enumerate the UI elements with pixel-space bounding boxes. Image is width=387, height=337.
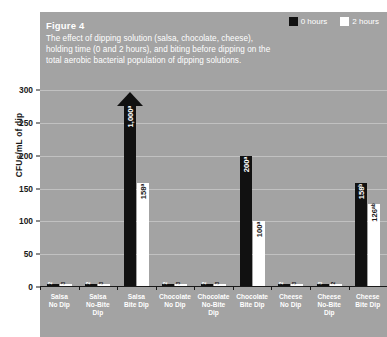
bar-value-label: 2 <box>201 282 207 285</box>
x-axis-label-line: No-Bite <box>310 301 349 309</box>
bar-value-label: 2 <box>278 282 284 285</box>
x-axis-label: SalsaNo Dip <box>40 290 79 334</box>
x-tick-mark <box>271 287 272 290</box>
x-axis-label: SalsaNo-BiteDip <box>79 290 118 334</box>
bar-group: 23 <box>156 90 195 287</box>
x-axis-label: CheeseBite Dip <box>349 290 387 334</box>
bar-group: 23 <box>271 90 310 287</box>
bar-value-label: 158ᵃ <box>138 184 147 200</box>
axis-baseline <box>40 286 387 287</box>
x-axis-label-line: Cheese <box>349 293 387 301</box>
bar-wrapper: 158ᵇ <box>355 183 367 287</box>
y-axis-ticks: 050100150200250300 <box>0 0 40 337</box>
bar-value-label: 2 <box>162 282 168 285</box>
y-tick-label: 0 <box>28 282 33 292</box>
bar-2-hours[interactable]: 100ᵃ <box>253 221 265 287</box>
bar-value-label: 100ᵃ <box>254 222 263 238</box>
x-axis-label-line: No Dip <box>271 301 310 309</box>
x-tick-mark <box>310 287 311 290</box>
x-tick-mark <box>194 287 195 290</box>
y-tick-label: 300 <box>19 85 33 95</box>
x-axis-label-line: Dip <box>194 309 233 317</box>
x-axis-label-line: Dip <box>79 309 118 317</box>
figure-caption-text: The effect of dipping solution (salsa, c… <box>46 33 276 67</box>
x-axis-label-line: Cheese <box>271 293 310 301</box>
bar-wrapper: 1,000ᵃ <box>124 106 136 287</box>
bar-value-label: 2 <box>330 282 336 285</box>
x-axis-label-line: No-Bite <box>194 301 233 309</box>
x-axis-label: CheeseNo Dip <box>271 290 310 334</box>
legend-swatch-icon-0-hours <box>289 17 298 26</box>
bar-group: 23 <box>40 90 79 287</box>
bar-groups: 23231,000ᵃ158ᵃ2323200ᵃ100ᵃ2332158ᵇ126ᵃᵇ <box>40 90 387 287</box>
legend: 0 hours 2 hours <box>289 17 379 26</box>
x-axis-label-line: No-Bite <box>79 301 118 309</box>
x-axis-labels: SalsaNo DipSalsaNo-BiteDipSalsaBite DipC… <box>40 290 387 334</box>
bar-group: 1,000ᵃ158ᵃ <box>117 90 156 287</box>
x-axis-label-line: Bite Dip <box>117 301 156 309</box>
bar-value-label: 1,000ᵃ <box>125 106 134 128</box>
bar-wrapper: 158ᵃ <box>137 183 149 287</box>
bar-value-label: 3 <box>60 282 66 285</box>
bar-group: 23 <box>79 90 118 287</box>
figure-title: Figure 4 <box>46 20 276 32</box>
x-axis-label-line: Bite Dip <box>233 301 272 309</box>
x-tick-mark <box>79 287 80 290</box>
bar-group: 200ᵃ100ᵃ <box>233 90 272 287</box>
bar-value-label: 2 <box>85 282 91 285</box>
legend-item-2-hours[interactable]: 2 hours <box>340 17 379 26</box>
x-axis-label-line: No Dip <box>156 301 195 309</box>
legend-label-0-hours: 0 hours <box>301 17 328 26</box>
bar-value-label: 3 <box>214 282 220 285</box>
y-tick-label: 200 <box>19 151 33 161</box>
bar-group: 32 <box>310 90 349 287</box>
x-tick-mark <box>349 287 350 290</box>
legend-swatch-icon-2-hours <box>340 17 349 26</box>
bar-value-label: 158ᵇ <box>357 184 366 200</box>
x-axis-label: ChocolateNo Dip <box>156 290 195 334</box>
y-tick-label: 150 <box>19 184 33 194</box>
bar-0-hours[interactable]: 1,000ᵃ <box>124 106 136 287</box>
bar-value-label: 3 <box>98 282 104 285</box>
x-axis-label: SalsaBite Dip <box>117 290 156 334</box>
x-tick-mark <box>156 287 157 290</box>
bar-value-label: 3 <box>317 282 323 285</box>
x-axis-label-line: Salsa <box>117 293 156 301</box>
x-axis-label: ChocolateNo-BiteDip <box>194 290 233 334</box>
bar-wrapper: 200ᵃ <box>240 156 252 287</box>
bar-group: 23 <box>194 90 233 287</box>
legend-item-0-hours[interactable]: 0 hours <box>289 17 328 26</box>
bar-value-label: 200ᵃ <box>241 156 250 172</box>
bar-value-label: 126ᵃᵇ <box>370 204 379 223</box>
off-scale-arrow-icon <box>117 92 143 106</box>
x-axis-label-line: Chocolate <box>156 293 195 301</box>
plot-area: 23231,000ᵃ158ᵃ2323200ᵃ100ᵃ2332158ᵇ126ᵃᵇ <box>40 90 387 287</box>
bar-wrapper: 126ᵃᵇ <box>368 204 380 287</box>
bar-value-label: 3 <box>175 282 181 285</box>
y-tick-label: 250 <box>19 118 33 128</box>
bar-2-hours[interactable]: 126ᵃᵇ <box>368 204 380 287</box>
x-tick-mark <box>117 287 118 290</box>
legend-label-2-hours: 2 hours <box>352 17 379 26</box>
bar-value-label: 3 <box>291 282 297 285</box>
x-axis-label-line: No Dip <box>40 301 79 309</box>
x-tick-mark <box>233 287 234 290</box>
x-axis-label-line: Salsa <box>40 293 79 301</box>
bar-value-label: 2 <box>47 282 53 285</box>
bar-group: 158ᵇ126ᵃᵇ <box>349 90 387 287</box>
x-axis-label-line: Cheese <box>310 293 349 301</box>
x-axis-label-line: Dip <box>310 309 349 317</box>
y-tick-label: 100 <box>19 216 33 226</box>
x-axis-label: ChocolateBite Dip <box>233 290 272 334</box>
x-axis-label-line: Chocolate <box>194 293 233 301</box>
bar-wrapper: 100ᵃ <box>253 221 265 287</box>
bar-2-hours[interactable]: 158ᵃ <box>137 183 149 287</box>
x-axis-label-line: Chocolate <box>233 293 272 301</box>
x-axis-label-line: Bite Dip <box>349 301 387 309</box>
figure-caption-block: Figure 4 The effect of dipping solution … <box>46 20 276 67</box>
x-axis-label-line: Salsa <box>79 293 118 301</box>
x-axis-label: CheeseNo-BiteDip <box>310 290 349 334</box>
x-tick-mark <box>40 287 41 290</box>
bar-0-hours[interactable]: 158ᵇ <box>355 183 367 287</box>
bar-0-hours[interactable]: 200ᵃ <box>240 156 252 287</box>
